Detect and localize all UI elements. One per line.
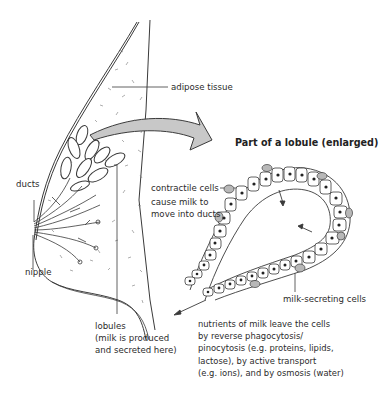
label-contractile-cells: contractile cells bbox=[151, 182, 219, 194]
label-contractile-desc-2: move into ducts bbox=[151, 208, 220, 220]
label-lobules-desc-1: (milk is produced bbox=[95, 332, 169, 344]
enlargement-arrow bbox=[90, 112, 212, 150]
note-line: pinocytosis (e.g. proteins, lipids, bbox=[198, 342, 344, 354]
note-line: nutrients of milk leave the cells bbox=[198, 318, 344, 330]
label-contractile-desc-1: cause milk to bbox=[151, 196, 208, 208]
nutrients-note: nutrients of milk leave the cells by rev… bbox=[198, 318, 344, 379]
label-adipose-tissue: adipose tissue bbox=[171, 81, 233, 93]
note-line: by reverse phagocytosis/ bbox=[198, 330, 344, 342]
label-ducts: ducts bbox=[16, 178, 39, 190]
note-line: lactose), by active transport bbox=[198, 355, 344, 367]
label-milk-secreting-cells: milk-secreting cells bbox=[283, 293, 366, 305]
label-nipple: nipple bbox=[25, 266, 51, 278]
label-lobules: lobules bbox=[95, 320, 126, 332]
label-lobules-desc-2: and secreted here) bbox=[95, 344, 177, 356]
note-line: (e.g. ions), and by osmosis (water) bbox=[198, 367, 344, 379]
enlarged-title: Part of a lobule (enlarged) bbox=[235, 137, 378, 148]
